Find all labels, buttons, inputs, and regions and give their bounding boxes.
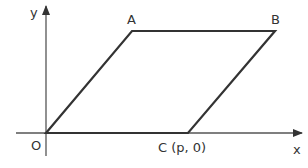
parallelogram-diagram: y x A B O C (p, 0) bbox=[0, 0, 308, 168]
point-label-o: O bbox=[31, 138, 41, 153]
point-label-c: C (p, 0) bbox=[158, 140, 206, 155]
point-label-b: B bbox=[271, 12, 280, 27]
point-label-a: A bbox=[127, 12, 136, 27]
x-axis-label: x bbox=[293, 142, 301, 157]
y-axis-label: y bbox=[30, 5, 38, 20]
parallelogram-oabc bbox=[46, 31, 275, 133]
